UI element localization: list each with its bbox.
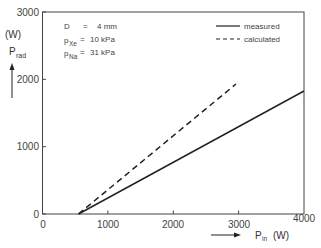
legend: measured calculated (216, 22, 280, 44)
y-axis-label: (W) P rad (5, 29, 26, 98)
x-axis-sub: in (262, 235, 267, 242)
parameter-block: D = 4 mm p Xe = 10 kPa p Na = 31 kPa (64, 22, 117, 60)
y-tick-2000: 2000 (17, 74, 40, 85)
param-pxe-value: 10 kPa (90, 35, 115, 44)
y-axis-ticks (43, 12, 47, 214)
arrow-right-icon (234, 233, 241, 238)
param-d-label: D (64, 22, 70, 31)
x-axis-label: P in (W) (211, 230, 289, 242)
calculated-line (79, 84, 237, 214)
x-tick-0: 0 (40, 219, 46, 230)
param-d-eq: = (83, 22, 88, 31)
param-pna-eq: = (80, 48, 85, 57)
legend-calculated-label: calculated (244, 35, 280, 44)
x-axis-unit: (W) (273, 230, 289, 241)
x-tick-1000: 1000 (97, 219, 120, 230)
legend-measured-label: measured (244, 22, 280, 31)
param-pna-value: 31 kPa (90, 48, 115, 57)
y-axis-sub: rad (16, 52, 26, 59)
x-tick-3000: 3000 (228, 219, 251, 230)
y-axis-unit: (W) (5, 29, 21, 40)
y-tick-3000: 3000 (17, 7, 40, 18)
param-pxe-eq: = (80, 35, 85, 44)
y-tick-1000: 1000 (17, 141, 40, 152)
x-axis-main: P (255, 230, 262, 241)
x-tick-4000: 4000 (293, 213, 316, 224)
x-tick-2000: 2000 (162, 219, 185, 230)
y-tick-0: 0 (33, 209, 39, 220)
param-pna-sub: Na (69, 53, 78, 60)
x-axis-ticks (108, 211, 239, 215)
measured-line (79, 91, 305, 214)
arrow-up-icon (10, 63, 15, 70)
param-pxe-sub: Xe (69, 40, 77, 47)
param-d-value: 4 mm (97, 22, 117, 31)
chart: 0 1000 2000 3000 0 1000 2000 3000 4000 m… (0, 0, 321, 248)
y-axis-main: P (9, 46, 16, 57)
